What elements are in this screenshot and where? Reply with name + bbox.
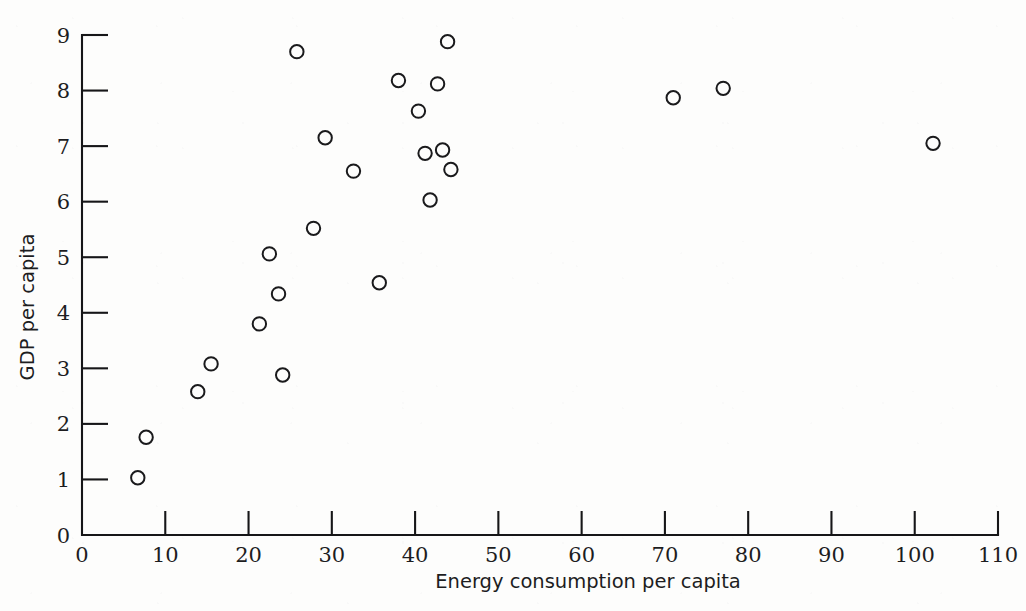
y-axis-title: GDP per capita bbox=[16, 234, 39, 381]
data-point bbox=[272, 287, 285, 300]
data-point bbox=[204, 357, 217, 370]
y-tick-label: 8 bbox=[57, 79, 70, 103]
data-point bbox=[431, 77, 444, 90]
data-point bbox=[441, 35, 454, 48]
data-point bbox=[717, 82, 730, 95]
data-point bbox=[444, 163, 457, 176]
data-point bbox=[667, 91, 680, 104]
data-point bbox=[423, 193, 436, 206]
data-point bbox=[392, 74, 405, 87]
y-tick-label: 9 bbox=[57, 24, 70, 48]
x-tick-label: 80 bbox=[735, 543, 762, 567]
x-tick-label: 0 bbox=[75, 543, 88, 567]
y-tick-label: 3 bbox=[57, 357, 70, 381]
caption-bleed-through bbox=[0, 597, 1026, 611]
x-tick-label: 100 bbox=[895, 543, 935, 567]
y-tick-label: 0 bbox=[57, 524, 70, 548]
x-tick-label: 40 bbox=[402, 543, 429, 567]
data-point bbox=[290, 45, 303, 58]
axis-titles: Energy consumption per capitaGDP per cap… bbox=[16, 234, 741, 593]
data-point bbox=[263, 247, 276, 260]
data-point bbox=[436, 143, 449, 156]
scatter-plot-canvas: 0102030405060708090100110 0123456789 Ene… bbox=[0, 0, 1026, 611]
data-point bbox=[373, 276, 386, 289]
data-point bbox=[253, 317, 266, 330]
x-tick-label: 30 bbox=[318, 543, 345, 567]
data-point bbox=[307, 222, 320, 235]
data-point bbox=[318, 131, 331, 144]
x-tick-label: 20 bbox=[235, 543, 262, 567]
data-point bbox=[347, 164, 360, 177]
x-axis-ticks bbox=[165, 511, 998, 535]
x-tick-label: 90 bbox=[818, 543, 845, 567]
y-tick-label: 6 bbox=[57, 190, 70, 214]
x-tick-label: 70 bbox=[652, 543, 679, 567]
data-point bbox=[412, 104, 425, 117]
axis-spine bbox=[82, 35, 998, 535]
data-point-series bbox=[131, 35, 940, 485]
x-tick-label: 60 bbox=[568, 543, 595, 567]
scatter-plot-figure: 0102030405060708090100110 0123456789 Ene… bbox=[0, 0, 1026, 611]
axes bbox=[82, 35, 998, 535]
data-point bbox=[418, 147, 431, 160]
data-point bbox=[276, 368, 289, 381]
x-tick-label: 10 bbox=[152, 543, 179, 567]
y-axis-tick-labels: 0123456789 bbox=[57, 24, 70, 548]
data-point bbox=[139, 431, 152, 444]
x-axis-tick-labels: 0102030405060708090100110 bbox=[75, 543, 1018, 567]
y-tick-label: 1 bbox=[57, 468, 70, 492]
y-tick-label: 4 bbox=[57, 301, 70, 325]
y-tick-label: 7 bbox=[57, 135, 70, 159]
y-axis-ticks bbox=[82, 35, 108, 479]
data-point bbox=[191, 385, 204, 398]
data-point bbox=[926, 137, 939, 150]
x-tick-label: 110 bbox=[978, 543, 1018, 567]
y-tick-label: 2 bbox=[57, 412, 70, 436]
x-tick-label: 50 bbox=[485, 543, 512, 567]
y-tick-label: 5 bbox=[57, 246, 70, 270]
data-point bbox=[131, 471, 144, 484]
x-axis-title: Energy consumption per capita bbox=[435, 570, 741, 593]
